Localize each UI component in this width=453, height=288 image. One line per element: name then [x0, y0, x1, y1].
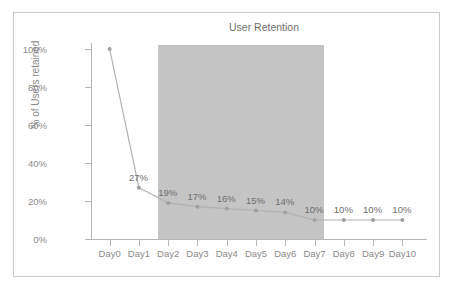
data-point-marker — [137, 186, 141, 190]
data-point-marker — [108, 47, 112, 51]
data-point-marker — [342, 218, 346, 222]
data-point-marker — [225, 207, 229, 211]
data-point-marker — [400, 218, 404, 222]
data-point-label-day8: 10% — [334, 205, 353, 215]
data-point-marker — [166, 201, 170, 205]
data-point-label-day7: 10% — [305, 205, 324, 215]
retention-line-series — [14, 13, 441, 278]
data-point-label-day3: 17% — [187, 192, 206, 202]
data-point-label-day1: 27% — [129, 173, 148, 183]
data-point-marker — [254, 209, 258, 213]
data-point-marker — [195, 205, 199, 209]
data-point-marker — [283, 210, 287, 214]
data-point-label-day4: 16% — [217, 194, 236, 204]
chart-figure: User Retention % of Users retained 0%20%… — [13, 12, 440, 277]
data-point-label-day9: 10% — [363, 205, 382, 215]
data-point-marker — [313, 218, 317, 222]
data-point-label-day10: 10% — [392, 205, 411, 215]
data-point-marker — [371, 218, 375, 222]
data-point-label-day5: 15% — [246, 196, 265, 206]
data-point-label-day2: 19% — [158, 188, 177, 198]
data-point-label-day6: 14% — [275, 197, 294, 207]
